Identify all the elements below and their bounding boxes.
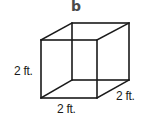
cube-back-face — [72, 23, 129, 80]
cube-edge-bottom-left — [41, 80, 72, 98]
width-label: 2 ft. — [57, 103, 76, 116]
cube-edge-top-right — [97, 23, 129, 40]
cube-front-face — [41, 40, 97, 98]
cube-edge-top-left — [41, 23, 72, 40]
cube-figure: b 2 ft. 2 ft. 2 ft. — [0, 0, 150, 128]
depth-label: 2 ft. — [116, 90, 135, 103]
height-label: 2 ft. — [14, 65, 33, 78]
